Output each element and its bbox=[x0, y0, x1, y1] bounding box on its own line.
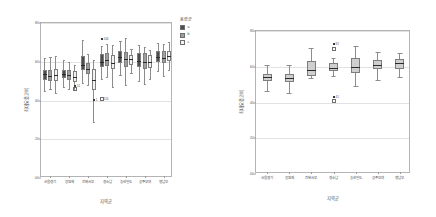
boxplot-3-전체: 8241 bbox=[329, 31, 338, 174]
boxplot-4-b bbox=[124, 23, 128, 178]
boxplot-5-a bbox=[137, 23, 141, 178]
boxplot-2-a bbox=[81, 23, 85, 178]
cap-lower bbox=[162, 76, 164, 77]
median-line bbox=[143, 62, 147, 63]
whisker-lower bbox=[107, 66, 108, 78]
legend: 용량군 abc bbox=[180, 16, 192, 48]
whisker-upper bbox=[125, 38, 126, 53]
whisker-lower bbox=[120, 63, 121, 76]
whisker-upper bbox=[139, 45, 140, 53]
whisker-upper bbox=[169, 42, 170, 51]
boxplot-0-전체 bbox=[263, 31, 272, 174]
whisker-upper bbox=[163, 44, 164, 51]
whisker-lower bbox=[355, 73, 356, 86]
x-tick-label-1: 강원제 bbox=[285, 175, 294, 180]
boxplot-0-b bbox=[48, 23, 52, 178]
y-tick-label: 20 bbox=[35, 137, 39, 141]
box bbox=[307, 61, 316, 75]
cap-upper bbox=[265, 65, 270, 66]
y-tick-label: 00 bbox=[250, 172, 254, 176]
cap-lower bbox=[149, 79, 151, 80]
y-tick-label: 20 bbox=[250, 136, 254, 140]
x-tick-label-6: 행남부 bbox=[395, 175, 404, 180]
x-tick-label-3: 경소남 bbox=[329, 175, 338, 180]
cap-lower bbox=[68, 89, 70, 90]
whisker-lower bbox=[267, 81, 268, 91]
left-x-axis-title: 지역군 bbox=[40, 198, 172, 204]
median-line bbox=[263, 77, 272, 78]
whisker-lower bbox=[101, 67, 102, 80]
cap-upper bbox=[100, 46, 102, 47]
median-line bbox=[162, 58, 166, 59]
whisker-lower bbox=[163, 63, 164, 77]
outlier-point bbox=[101, 38, 103, 40]
outlier-label: 82 bbox=[336, 42, 339, 46]
whisker-lower bbox=[399, 69, 400, 77]
cap-upper bbox=[87, 54, 89, 55]
whisker-lower bbox=[63, 78, 64, 87]
y-tick-label: 40 bbox=[35, 99, 39, 103]
cap-lower bbox=[125, 85, 127, 86]
cap-upper bbox=[119, 41, 121, 42]
cap-lower bbox=[49, 89, 51, 90]
cap-lower bbox=[87, 85, 89, 86]
x-tick-label-4: 농산일도 bbox=[120, 179, 132, 184]
x-tick-label-4: 농산일도 bbox=[350, 175, 362, 180]
whisker-lower bbox=[144, 69, 145, 85]
cap-lower bbox=[130, 73, 132, 74]
y-tick-mark bbox=[39, 178, 41, 179]
legend-swatch-b bbox=[180, 33, 185, 38]
median-line bbox=[43, 74, 47, 75]
cap-upper bbox=[82, 40, 84, 41]
y-tick-label: 80 bbox=[35, 21, 39, 25]
boxplot-4-전체 bbox=[351, 31, 360, 174]
median-line bbox=[329, 68, 338, 69]
boxplot-6-전체 bbox=[395, 31, 404, 174]
left-y-axis-title: 최대요중고비 bbox=[23, 80, 29, 120]
whisker-lower bbox=[158, 62, 159, 72]
whisker-upper bbox=[82, 40, 83, 56]
boxplot-1-b bbox=[67, 23, 71, 178]
boxplot-figure-pair: 0020406080서울경기강원제전북서부경소남농산일도공주부여행남부10612… bbox=[0, 0, 436, 217]
whisker-upper bbox=[69, 62, 70, 71]
cap-upper bbox=[309, 48, 314, 49]
cap-upper bbox=[331, 58, 336, 59]
outlier-label: 41 bbox=[336, 95, 339, 99]
y-tick-mark bbox=[254, 174, 256, 175]
right-x-axis-title: 지역군 bbox=[255, 195, 410, 201]
cap-upper bbox=[63, 60, 65, 61]
y-tick-mark bbox=[39, 23, 41, 24]
whisker-lower bbox=[50, 81, 51, 89]
y-tick-mark bbox=[254, 138, 256, 139]
boxplot-1-c: 51 bbox=[73, 23, 77, 178]
whisker-upper bbox=[112, 45, 113, 55]
box bbox=[351, 58, 360, 73]
cap-lower bbox=[144, 84, 146, 85]
boxplot-3-a: 106120 bbox=[100, 23, 104, 178]
cap-upper bbox=[353, 46, 358, 47]
cap-upper bbox=[162, 44, 164, 45]
boxplot-3-b bbox=[105, 23, 109, 178]
boxplot-6-c bbox=[167, 23, 171, 178]
legend-item-b[interactable]: b bbox=[180, 33, 192, 38]
cap-lower bbox=[82, 83, 84, 84]
median-line bbox=[148, 62, 152, 63]
whisker-upper bbox=[93, 60, 94, 69]
outlier-point bbox=[93, 99, 95, 101]
boxplot-2-전체 bbox=[307, 31, 316, 174]
legend-item-a[interactable]: a bbox=[180, 25, 192, 30]
x-tick-label-0: 서울경기 bbox=[261, 175, 273, 180]
whisker-upper bbox=[120, 41, 121, 51]
legend-item-c[interactable]: c bbox=[180, 40, 192, 45]
median-line bbox=[124, 59, 128, 60]
cap-upper bbox=[397, 53, 402, 54]
y-tick-label: 60 bbox=[35, 60, 39, 64]
cap-lower bbox=[397, 77, 402, 78]
median-line bbox=[395, 63, 404, 64]
boxplot-4-a bbox=[118, 23, 122, 178]
cap-lower bbox=[100, 79, 102, 80]
whisker-upper bbox=[377, 52, 378, 59]
boxplot-3-c bbox=[111, 23, 115, 178]
cap-upper bbox=[125, 38, 127, 39]
boxplot-5-c bbox=[148, 23, 152, 178]
